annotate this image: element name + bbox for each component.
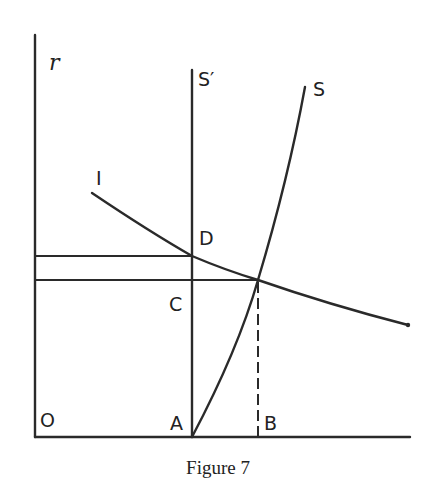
investment-curve-label: I bbox=[96, 169, 102, 188]
point-c-label: C bbox=[169, 295, 182, 314]
supply-curve-label: S bbox=[313, 80, 325, 99]
investment-curve-end-dot bbox=[406, 323, 410, 327]
vertical-supply-label: S′ bbox=[198, 70, 214, 89]
point-d-label: D bbox=[199, 229, 214, 248]
diagram-canvas bbox=[0, 0, 432, 497]
point-b-label: B bbox=[264, 414, 277, 433]
origin-label: O bbox=[40, 411, 55, 430]
point-a-label: A bbox=[170, 414, 183, 433]
figure-caption: Figure 7 bbox=[0, 458, 432, 477]
y-axis-label: r bbox=[49, 52, 60, 74]
